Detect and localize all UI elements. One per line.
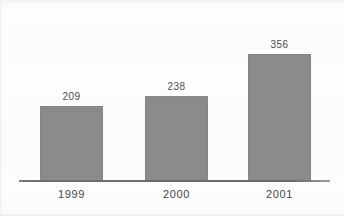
bar-chart-figure: 209 1999 238 2000 356 2001 — [0, 0, 344, 216]
bar-group-2000[interactable]: 238 2000 — [145, 96, 208, 181]
bar-group-1999[interactable]: 209 1999 — [40, 106, 103, 181]
bar-value-label-2001: 356 — [271, 39, 289, 50]
plot-area: 209 1999 238 2000 356 2001 — [0, 0, 344, 216]
bar-rect-2000[interactable] — [145, 96, 208, 181]
bar-value-label-2000: 238 — [168, 81, 186, 92]
x-axis-baseline — [19, 180, 330, 182]
bar-rect-2001[interactable] — [248, 54, 311, 181]
bar-value-label-1999: 209 — [63, 91, 81, 102]
bar-rect-1999[interactable] — [40, 106, 103, 181]
x-axis-label-1999: 1999 — [58, 188, 85, 200]
x-axis-label-2000: 2000 — [163, 188, 190, 200]
bar-group-2001[interactable]: 356 2001 — [248, 54, 311, 181]
x-axis-label-2001: 2001 — [266, 188, 293, 200]
